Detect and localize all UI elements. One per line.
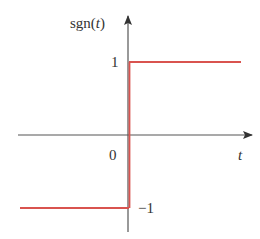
- x-axis-label: t: [238, 147, 243, 163]
- origin-label: 0: [109, 147, 117, 163]
- tick-label-pos-one: 1: [111, 54, 119, 70]
- signum-plot: sgn(t) 1 0 t −1: [0, 0, 260, 239]
- tick-label-neg-one: −1: [138, 200, 154, 216]
- y-axis-label: sgn(t): [70, 15, 105, 32]
